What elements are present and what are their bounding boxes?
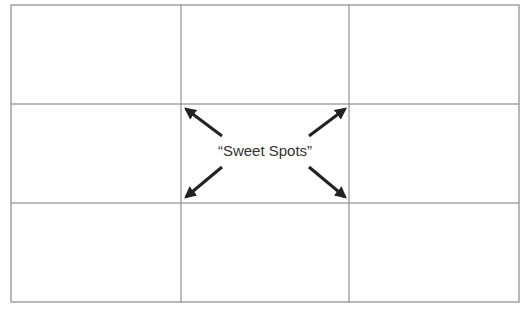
arrow-bottom-right-icon — [309, 167, 345, 197]
arrow-top-right-icon — [309, 109, 345, 136]
arrow-top-left-icon — [186, 109, 222, 136]
arrow-bottom-left-icon — [186, 167, 222, 197]
sweet-spots-label: “Sweet Spots” — [181, 141, 349, 161]
